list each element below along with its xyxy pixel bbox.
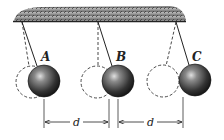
string-b bbox=[98, 22, 112, 66]
ceiling bbox=[13, 6, 186, 22]
dimension-ab: d bbox=[44, 99, 109, 129]
rest-string-c bbox=[166, 22, 176, 66]
rest-position-c bbox=[147, 65, 179, 97]
pendulum-b: B bbox=[81, 22, 134, 98]
string-c bbox=[176, 22, 189, 65]
ball-c bbox=[179, 64, 211, 96]
label-b: B bbox=[115, 50, 126, 64]
dimension-label-d2: d bbox=[147, 116, 154, 129]
pendulum-a: A bbox=[16, 22, 60, 98]
label-c: C bbox=[192, 50, 202, 64]
ball-b bbox=[102, 65, 134, 97]
pendulum-diagram: A B C d d bbox=[0, 0, 224, 140]
rest-string-a bbox=[22, 22, 29, 66]
dimension-bc: d bbox=[118, 97, 183, 129]
label-a: A bbox=[40, 50, 50, 64]
string-a bbox=[22, 22, 37, 66]
dimension-label-d1: d bbox=[73, 116, 80, 129]
pendulum-c: C bbox=[147, 22, 211, 97]
ball-a bbox=[28, 65, 60, 97]
